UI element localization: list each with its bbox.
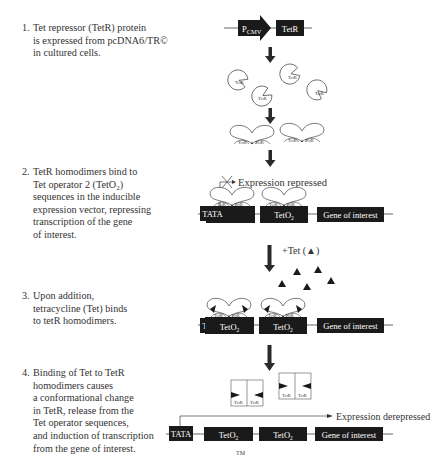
svg-text:TetR: TetR: [269, 202, 278, 207]
repressed-construct: Expression repressed TATA TetO2 Gene of …: [198, 176, 393, 223]
expression-repressed-label: Expression repressed: [238, 177, 328, 188]
svg-text:TetR: TetR: [238, 140, 247, 145]
down-arrow-icon: [265, 150, 276, 167]
expression-derepressed-label: Expression derepressed: [336, 411, 430, 422]
svg-text:TetR: TetR: [234, 202, 243, 207]
tata-label: TATA: [202, 209, 223, 219]
tetr-monomer-label: TetR: [315, 91, 324, 96]
svg-text:TetR: TetR: [285, 313, 294, 318]
svg-text:TetR: TetR: [305, 138, 314, 143]
tet-triangle-icon: [303, 283, 311, 290]
tetr-homodimers: TetR TetR TetR TetR: [230, 123, 324, 145]
tetracycline-molecules: [278, 266, 335, 290]
gene-of-interest-label: Gene of interest: [322, 430, 377, 440]
tet-repression-diagram: PCMV TetR TetR TetR TetR TetR TetR TetR …: [0, 0, 439, 456]
svg-text:TetR: TetR: [282, 393, 291, 398]
tetr-monomer-label: TetR: [258, 96, 267, 101]
svg-text:TetR: TetR: [286, 202, 295, 207]
tet-triangle-icon: [314, 266, 322, 273]
down-arrow-icon: [265, 108, 276, 124]
down-arrow-icon: [265, 47, 276, 63]
gene-of-interest-label: Gene of interest: [323, 321, 378, 331]
tata-label: TATA: [171, 429, 192, 439]
down-arrow-icon: [264, 245, 275, 272]
svg-text:TetR: TetR: [288, 138, 297, 143]
gene-of-interest-label: Gene of interest: [323, 210, 378, 220]
tet-addition-label: +Tet (▲): [282, 245, 319, 257]
derepressed-construct: Expression derepressed TATA TetO2 TetO2 …: [166, 411, 430, 442]
svg-text:TetR: TetR: [250, 400, 259, 405]
svg-text:TetR: TetR: [214, 313, 223, 318]
tet-bound-construct: TATA Gene of interest TetO2 TetO2 TetR T…: [198, 298, 393, 334]
tet-triangle-icon: [278, 280, 286, 287]
down-arrow-icon: [264, 345, 275, 371]
tet-triangle-icon: [327, 277, 335, 284]
tetr-monomer-label: TetR: [235, 80, 244, 85]
trademark-mark: TM: [236, 450, 246, 456]
svg-text:TetR: TetR: [268, 313, 277, 318]
tetr-monomer-label: TetR: [288, 75, 297, 80]
tet-triangle-icon: [293, 268, 301, 275]
pcmv-tetr-construct: PCMV TetR: [224, 15, 312, 41]
transcription-arrow-icon: [327, 414, 333, 418]
svg-text:TetR: TetR: [255, 140, 264, 145]
svg-text:TetR: TetR: [234, 400, 243, 405]
svg-text:TetR: TetR: [231, 313, 240, 318]
tetr-monomers: TetR TetR TetR TetR: [225, 62, 330, 110]
tetr-gene-label: TetR: [282, 24, 299, 34]
svg-text:TetR: TetR: [298, 393, 307, 398]
released-tetr-dimers: TetR TetR TetR TetR: [231, 373, 311, 406]
